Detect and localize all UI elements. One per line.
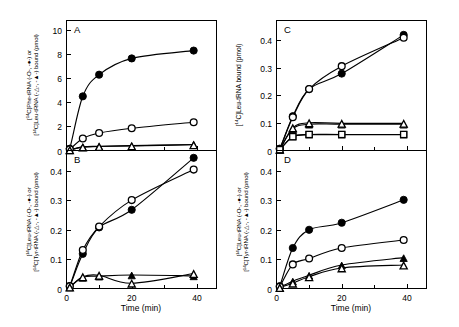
data-point-open-circle xyxy=(79,135,86,142)
data-point-filled-circle xyxy=(79,93,86,100)
panel-b-ylabel-line2: [14C]Tyr-tRNA (-△-, -▲-) bound (pmol) xyxy=(32,172,39,272)
data-point-open-triangle xyxy=(96,144,103,151)
data-point-open-circle xyxy=(338,63,345,70)
data-point-filled-circle xyxy=(128,55,135,62)
data-point-filled-circle xyxy=(289,244,296,251)
panel-b-xlabel: Time (min) xyxy=(121,303,161,313)
data-point-open-triangle xyxy=(400,262,407,269)
data-point-open-circle xyxy=(400,34,407,41)
x-tick-label: 40 xyxy=(402,293,412,303)
panel-d-letter: D xyxy=(284,154,291,165)
y-tick-label: 8 xyxy=(57,50,62,60)
panel-b-ylabel-line1: [14C]Leu-tRNA (-O-, -●-) or xyxy=(25,187,32,256)
data-point-open-circle xyxy=(190,166,197,173)
data-point-open-square xyxy=(401,131,407,137)
panel-d-yticks xyxy=(277,172,281,290)
data-point-open-triangle xyxy=(289,280,296,287)
panel-a-ylabel-line2: [14C]Leu-tRNA (-△-, -▲-) bound (pmol) xyxy=(32,34,39,135)
panel-d-xlabel: Time (min) xyxy=(331,303,371,313)
panel-a-ylabel: [14C]Phe-tRNA (-O-, -●-) or [14C]Leu-tRN… xyxy=(25,34,40,135)
series-curve xyxy=(67,170,194,290)
panel-c-xticks xyxy=(278,146,408,151)
panel-c-ytick-labels: 00.10.20.30.4 xyxy=(260,36,272,157)
panel-b-ytick-labels: 00.10.20.30.4 xyxy=(50,167,62,295)
panel-b: 00.10.20.30.4 02040 B [14C]Leu-tRNA (-O-… xyxy=(25,151,217,314)
data-point-filled-circle xyxy=(306,226,313,233)
y-tick-label: 2 xyxy=(57,122,62,132)
data-point-open-circle xyxy=(400,237,407,244)
panel-b-curves xyxy=(67,158,194,290)
data-point-open-triangle xyxy=(79,274,86,281)
data-point-open-triangle xyxy=(79,144,86,151)
data-point-filled-circle xyxy=(338,70,345,77)
panel-b-yticks xyxy=(67,172,71,290)
y-tick-label: 0.4 xyxy=(50,167,62,177)
data-point-filled-circle xyxy=(96,71,103,78)
y-tick-label: 0.4 xyxy=(260,167,272,177)
panel-a: 0246810 A [14C]Phe-tRNA (-O-, -●-) or [1… xyxy=(25,21,217,157)
panel-c-letter: C xyxy=(284,24,291,35)
data-point-open-circle xyxy=(338,245,345,252)
data-point-open-triangle xyxy=(306,120,313,127)
panel-d: 00.10.20.30.4 02040 D [14C]Leu-tRNA (-O-… xyxy=(235,151,427,314)
panel-d-xtick-labels: 02040 xyxy=(274,293,412,303)
panel-b-letter: B xyxy=(74,154,80,165)
data-point-open-circle xyxy=(79,247,86,254)
y-tick-label: 0.3 xyxy=(50,196,62,206)
panel-a-letter: A xyxy=(74,24,81,35)
data-point-filled-circle xyxy=(400,196,407,203)
data-point-open-triangle xyxy=(96,272,103,279)
panel-a-markers xyxy=(66,47,197,154)
y-tick-label: 0 xyxy=(57,285,62,295)
y-tick-label: 0 xyxy=(57,147,62,157)
panel-a-yticks xyxy=(67,31,71,152)
data-point-open-triangle xyxy=(338,120,345,127)
data-point-open-triangle xyxy=(400,120,407,127)
panel-b-markers xyxy=(66,154,197,291)
data-point-open-square xyxy=(339,131,345,137)
panel-d-xticks xyxy=(278,284,408,289)
data-point-open-circle xyxy=(306,86,313,93)
data-point-filled-circle xyxy=(190,154,197,161)
panel-c-ylabel: [14C]Leu-tRNA bound (pmol) xyxy=(234,44,243,127)
y-tick-label: 0 xyxy=(267,285,272,295)
y-tick-label: 4 xyxy=(57,98,62,108)
data-point-open-triangle xyxy=(128,280,135,287)
panel-c: 00.10.20.30.4 C [14C]Leu-tRNA bound (pmo… xyxy=(234,21,426,157)
y-tick-label: 0.4 xyxy=(260,36,272,46)
y-tick-label: 0.3 xyxy=(260,196,272,206)
y-tick-label: 10 xyxy=(53,26,63,36)
panel-a-ylabel-line1: [14C]Phe-tRNA (-O-, -●-) or xyxy=(25,50,32,120)
y-tick-label: 0.2 xyxy=(50,226,62,236)
panel-b-ylabel: [14C]Leu-tRNA (-O-, -●-) or [14C]Tyr-tRN… xyxy=(25,172,40,272)
figure-root: 0246810 A [14C]Phe-tRNA (-O-, -●-) or [1… xyxy=(0,0,459,327)
data-point-open-circle xyxy=(190,119,197,126)
y-tick-label: 0.2 xyxy=(260,226,272,236)
x-tick-label: 0 xyxy=(274,293,279,303)
x-tick-label: 20 xyxy=(127,293,137,303)
data-point-open-circle xyxy=(96,223,103,230)
data-point-open-triangle xyxy=(190,271,197,278)
data-point-open-circle xyxy=(289,114,296,121)
data-point-open-triangle xyxy=(128,143,135,150)
panel-d-markers xyxy=(276,196,407,291)
panel-b-xtick-labels: 02040 xyxy=(64,293,202,303)
data-point-open-square xyxy=(290,134,296,140)
panel-d-ylabel-line1: [14C]Leu-tRNA (-O-, -●-) or xyxy=(235,187,242,256)
series-curve xyxy=(67,158,194,290)
y-tick-label: 0.2 xyxy=(260,91,272,101)
x-tick-label: 20 xyxy=(337,293,347,303)
data-point-open-triangle xyxy=(190,142,197,149)
multi-panel-kinetics-figure: 0246810 A [14C]Phe-tRNA (-O-, -●-) or [1… xyxy=(0,0,459,327)
panel-c-yticks xyxy=(277,41,281,152)
panel-d-ylabel-line2: [14C]Tyr-tRNA (-△-, -▲-) bound (pmol) xyxy=(242,172,249,272)
y-tick-label: 0.1 xyxy=(260,255,272,265)
y-tick-label: 0 xyxy=(267,147,272,157)
data-point-open-circle xyxy=(128,197,135,204)
panel-c-ylabel-text: [14C]Leu-tRNA bound (pmol) xyxy=(234,44,243,127)
data-point-open-circle xyxy=(289,261,296,268)
y-tick-label: 0.3 xyxy=(260,64,272,74)
data-point-open-square xyxy=(306,131,312,137)
y-tick-label: 0.1 xyxy=(50,255,62,265)
panel-d-ylabel: [14C]Leu-tRNA (-O-, -●-) or [14C]Tyr-tRN… xyxy=(235,172,250,272)
